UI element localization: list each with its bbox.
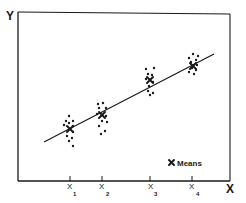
x-ticks — [70, 176, 192, 181]
mean-marker-x2 — [99, 112, 105, 118]
tick-label-x4: X — [189, 182, 195, 191]
tick-sub-x2: 2 — [106, 191, 110, 197]
plot-frame — [18, 12, 230, 181]
legend: Means — [169, 159, 202, 168]
tick-label-x1: X — [67, 182, 73, 191]
legend-means-label: Means — [177, 159, 202, 168]
legend-means-icon — [169, 160, 174, 165]
tick-label-x2: X — [99, 182, 105, 191]
tick-sub-x4: 4 — [196, 191, 200, 197]
tick-sub-x3: 3 — [154, 191, 158, 197]
regression-scatter-diagram: Y X X 1 X 2 X 3 X 4 — [0, 0, 246, 203]
tick-label-x3: X — [148, 182, 154, 191]
y-axis-label: Y — [6, 9, 14, 23]
tick-sub-x1: 1 — [73, 191, 77, 197]
cluster-x2 — [96, 102, 108, 135]
x-tick-labels: X 1 X 2 X 3 X 4 — [67, 182, 200, 197]
x-axis-label: X — [226, 182, 234, 196]
mean-marker-x3 — [147, 77, 153, 83]
diagram-canvas: Y X X 1 X 2 X 3 X 4 — [0, 0, 246, 203]
cluster-x3 — [145, 67, 155, 96]
top-border — [18, 12, 230, 14]
data-points — [63, 53, 199, 147]
